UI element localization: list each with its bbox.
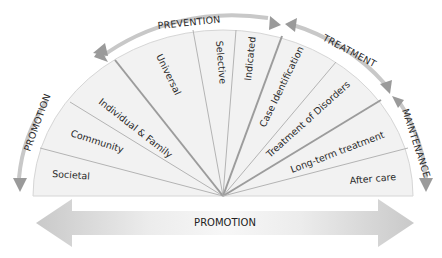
treatment-left-arrowhead-icon (285, 18, 297, 32)
continuum-diagram: PROMOTION PREVENTION TREATMENT MAINTENAN… (0, 0, 442, 258)
maintenance-arrowhead-icon (419, 178, 433, 192)
promotion-arrowhead-icon (13, 178, 27, 192)
prevention-right-arrowhead-icon (269, 16, 281, 30)
prevention-arc-label: PREVENTION (157, 13, 221, 31)
promotion-arrow-label: PROMOTION (194, 217, 256, 228)
